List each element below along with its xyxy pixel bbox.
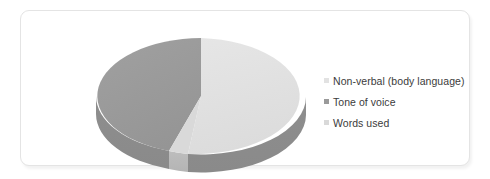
pie-chart xyxy=(76,28,306,173)
legend-item-words-used[interactable]: Words used xyxy=(324,113,490,133)
legend-label-tone-of-voice: Tone of voice xyxy=(333,96,396,108)
legend-label-words-used: Words used xyxy=(333,117,389,129)
pie-slice-wall-words-used xyxy=(169,151,188,172)
pie-chart-svg xyxy=(76,28,306,173)
legend-swatch-icon-non-verbal xyxy=(324,78,329,83)
legend-swatch-icon-words-used xyxy=(324,120,329,125)
chart-legend: Non-verbal (body language) Tone of voice… xyxy=(324,71,490,134)
screenshot-canvas: Non-verbal (body language) Tone of voice… xyxy=(0,0,490,179)
legend-item-non-verbal[interactable]: Non-verbal (body language) xyxy=(324,71,490,91)
legend-swatch-icon-tone-of-voice xyxy=(324,99,329,104)
chart-frame: Non-verbal (body language) Tone of voice… xyxy=(20,10,470,166)
legend-label-non-verbal: Non-verbal (body language) xyxy=(333,75,464,87)
legend-item-tone-of-voice[interactable]: Tone of voice xyxy=(324,92,490,112)
